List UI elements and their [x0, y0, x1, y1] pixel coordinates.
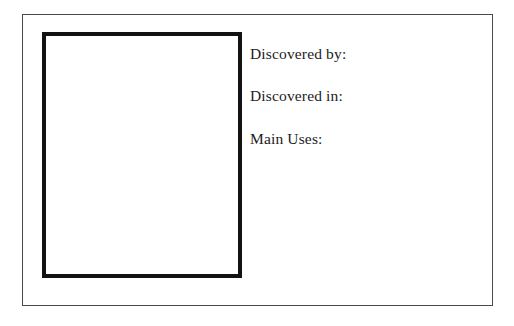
picture-drawing-area[interactable] [46, 36, 238, 274]
field-label-main-uses: Main Uses: [250, 116, 478, 147]
picture-drawing-box[interactable] [42, 32, 242, 278]
field-row-discovered-in[interactable]: Discovered in: [250, 74, 478, 116]
field-label-discovered-by: Discovered by: [250, 32, 478, 62]
field-row-main-uses[interactable]: Main Uses: [250, 116, 478, 158]
worksheet-card: Discovered by: Discovered in: Main Uses: [22, 14, 493, 306]
notes-writing-area[interactable] [250, 160, 478, 278]
field-label-discovered-in: Discovered in: [250, 74, 478, 104]
field-row-discovered-by[interactable]: Discovered by: [250, 32, 478, 74]
